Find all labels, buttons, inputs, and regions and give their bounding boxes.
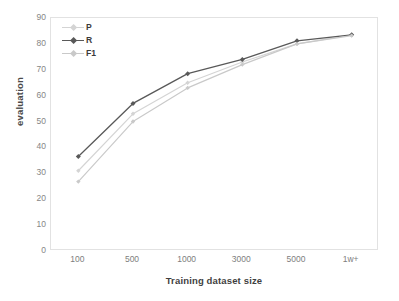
legend-swatch-icon (62, 48, 84, 59)
y-axis-tick-label: 50 (4, 117, 46, 126)
x-axis-tick-label: 1000 (157, 255, 217, 264)
y-axis-tick-label: 40 (4, 142, 46, 151)
x-axis-tick-labels: 1005001000300050001w+ (50, 255, 378, 269)
x-axis-tick-label: 1w+ (321, 255, 381, 264)
y-axis-tick-label: 10 (4, 220, 46, 229)
legend-item-p[interactable]: P (62, 21, 132, 34)
x-axis-tick-label: 500 (102, 255, 162, 264)
y-axis-tick-label: 60 (4, 91, 46, 100)
legend-swatch-icon (62, 22, 84, 33)
y-axis-tick-label: 20 (4, 194, 46, 203)
legend-item-r[interactable]: R (62, 34, 132, 47)
legend-item-f1[interactable]: F1 (62, 47, 132, 60)
legend-label: P (86, 23, 92, 32)
x-axis-tick-label: 5000 (266, 255, 326, 264)
data-point-marker (185, 81, 189, 85)
legend-swatch-icon (62, 35, 84, 46)
legend-label: F1 (86, 49, 96, 58)
data-point-marker (185, 71, 190, 76)
legend-label: R (86, 36, 92, 45)
y-axis-tick-label: 70 (4, 65, 46, 74)
y-axis-tick-label: 0 (4, 246, 46, 255)
x-axis-title: Training dataset size (50, 275, 378, 286)
y-axis-tick-labels: 9080706050403020100 (0, 17, 46, 250)
x-axis-tick-label: 3000 (211, 255, 271, 264)
data-point-marker (295, 42, 299, 46)
x-axis-tick-label: 100 (47, 255, 107, 264)
chart-legend: PRF1 (62, 21, 132, 60)
y-axis-tick-label: 30 (4, 168, 46, 177)
y-axis-tick-label: 80 (4, 39, 46, 48)
y-axis-tick-label: 90 (4, 13, 46, 22)
line-chart-figure: evaluation 9080706050403020100 PRF1 1005… (0, 0, 399, 301)
